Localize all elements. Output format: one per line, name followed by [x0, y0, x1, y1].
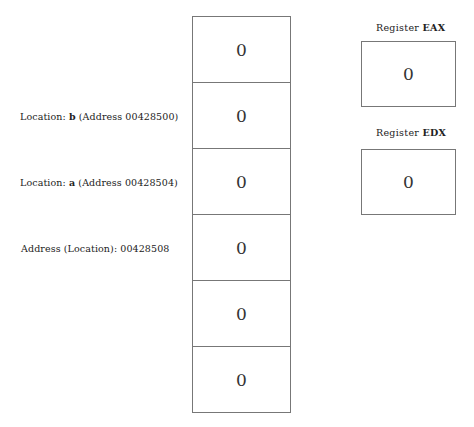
register-name: EDX — [422, 127, 446, 138]
memory-cell-1: 0 — [193, 83, 290, 149]
memory-cell-3: 0 — [193, 215, 290, 281]
label-prefix: Location: — [20, 111, 69, 122]
memory-cell-4: 0 — [193, 281, 290, 347]
memory-column: 0 0 0 0 0 0 — [192, 16, 291, 413]
label-address-location: Address (Location): 00428508 — [21, 243, 169, 254]
memory-cell-5: 0 — [193, 347, 290, 413]
register-eax-title: Register EAX — [376, 22, 445, 33]
memory-cell-0: 0 — [193, 17, 290, 83]
label-location-a: Location: a (Address 00428504) — [20, 177, 178, 188]
memory-cell-2: 0 — [193, 149, 290, 215]
variable-name: b — [69, 111, 76, 122]
register-name: EAX — [422, 22, 445, 33]
register-edx-box: 0 — [361, 149, 456, 215]
label-prefix: Location: — [20, 177, 69, 188]
label-suffix: (Address 00428504) — [75, 177, 178, 188]
register-prefix: Register — [376, 127, 422, 138]
register-edx-title: Register EDX — [376, 127, 446, 138]
label-location-b: Location: b (Address 00428500) — [20, 111, 178, 122]
label-suffix: (Address 00428500) — [76, 111, 179, 122]
register-prefix: Register — [376, 22, 422, 33]
register-eax-box: 0 — [361, 41, 456, 107]
